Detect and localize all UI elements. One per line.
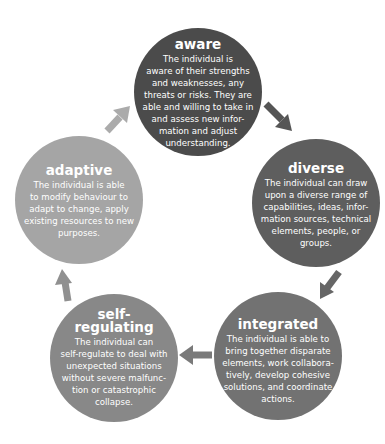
node-description: The individual can draw upon a diverse r… — [261, 177, 371, 249]
node-title: diverse — [288, 161, 344, 175]
arrow-head — [55, 269, 72, 285]
node-description: The individual is aware of their strengt… — [143, 53, 254, 149]
resilience-cycle-diagram: aware The individual is aware of their s… — [0, 0, 385, 444]
node-description: The individual is able to bring together… — [222, 333, 334, 405]
arrow-shaft — [107, 117, 120, 131]
node-aware: aware The individual is aware of their s… — [134, 28, 262, 156]
node-title: adaptive — [46, 163, 113, 177]
node-title: integrated — [238, 317, 319, 331]
arrow-shaft — [65, 282, 68, 301]
node-description: The individual is able to modify behavio… — [24, 179, 134, 239]
arrow-shaft — [327, 272, 339, 288]
node-diverse: diverse The individual can draw upon a d… — [252, 139, 380, 267]
node-adaptive: adaptive The individual is able to modif… — [15, 136, 143, 264]
arrow-self-regulating-to-adaptive — [55, 269, 72, 301]
node-description: The individual can self-regulate to deal… — [60, 336, 167, 408]
arrow-integrated-to-self-regulating — [179, 345, 212, 365]
arrow-shaft — [266, 104, 282, 120]
arrow-head — [179, 345, 193, 365]
arrow-adaptive-to-aware — [107, 106, 130, 131]
node-self-regulating: self- regulating The individual can self… — [50, 294, 178, 422]
arrow-aware-to-diverse — [266, 104, 292, 131]
node-integrated: integrated The individual is able to bri… — [214, 292, 342, 420]
arrow-diverse-to-integrated — [320, 272, 339, 299]
node-title: aware — [175, 37, 222, 51]
node-title: self- regulating — [74, 308, 153, 334]
